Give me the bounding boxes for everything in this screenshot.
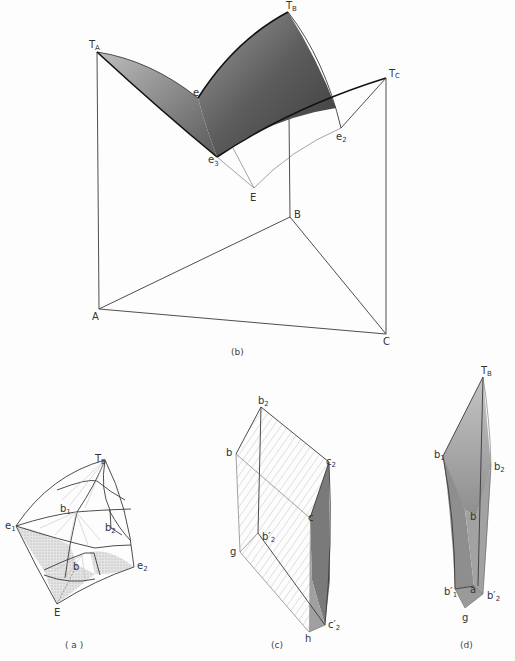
label-A: A — [92, 311, 99, 322]
label-b: b — [73, 561, 79, 572]
label-TB: TB — [94, 453, 106, 466]
valley-e2-E — [254, 128, 341, 188]
panel-c: b2 b c2 c g b′2 h c′2 (c) — [226, 395, 340, 650]
isotherm-2 — [76, 509, 131, 512]
label-b2: b2 — [258, 395, 269, 408]
panel-d: TB b1 b2 b b′1 a b′2 g (d) — [434, 365, 505, 650]
label-E: E — [54, 607, 60, 618]
label-e2: e2 — [336, 131, 347, 144]
label-C: C — [383, 336, 390, 347]
label-E: E — [250, 192, 256, 203]
region-e1-b — [16, 526, 77, 573]
caption-b: (b) — [231, 347, 244, 357]
label-TB: TB — [285, 0, 297, 13]
label-e1: e1 — [5, 520, 16, 533]
ternary-phase-diagram-figure: TA TB TC e e2 e3 E B A C (b) — [0, 0, 515, 661]
label-h: h — [305, 633, 311, 644]
base-triangle-ABC — [99, 217, 386, 334]
label-b: b — [470, 511, 476, 522]
label-c2prime: c′2 — [328, 619, 340, 632]
label-b: b — [226, 447, 232, 458]
label-g: g — [230, 546, 236, 557]
label-TB: TB — [480, 365, 492, 378]
label-a: a — [470, 584, 476, 595]
caption-c: (c) — [271, 640, 283, 650]
label-g: g — [462, 612, 468, 623]
label-e2: e2 — [137, 560, 148, 573]
label-c: c — [308, 512, 314, 523]
edge-TA-A — [97, 52, 99, 309]
panel-a: TB e1 e2 b1 b2 b E ( a ) — [5, 453, 148, 650]
label-TA: TA — [88, 39, 100, 52]
valley-e3-E — [217, 157, 254, 188]
curve-TB-e2 — [105, 460, 134, 567]
label-b1: b1 — [434, 449, 445, 462]
label-e: e — [193, 87, 199, 98]
valley-e-E — [233, 148, 254, 188]
label-TC: TC — [388, 68, 400, 80]
panel-b: TA TB TC e e2 e3 E B A C (b) — [88, 0, 400, 357]
curve-e1-TB — [16, 460, 105, 526]
label-b2: b2 — [494, 461, 505, 474]
liquidus-surface-TB — [198, 12, 336, 157]
caption-a: ( a ) — [65, 640, 83, 650]
label-b2prime: b′2 — [487, 590, 500, 603]
label-b2: b2 — [105, 522, 116, 535]
isotherm-1b — [97, 481, 125, 500]
caption-d: (d) — [460, 640, 473, 650]
label-B: B — [294, 209, 301, 220]
